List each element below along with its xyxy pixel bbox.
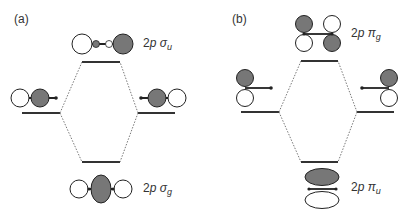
prefix: 2	[351, 26, 358, 40]
prefix: 2	[143, 181, 150, 195]
mo-diagram	[0, 0, 406, 220]
p: p	[150, 36, 157, 50]
pi-g-label: 2p πg	[351, 26, 381, 42]
right-p-orbital-b-icon	[360, 70, 397, 107]
sigma-u-orbital-icon	[72, 34, 133, 54]
symbol: π	[368, 180, 376, 194]
symbol: σ	[160, 181, 167, 195]
sigma-g-orbital-icon	[70, 175, 132, 203]
pi-u-label: 2p πu	[351, 180, 381, 196]
prefix: 2	[143, 36, 150, 50]
panel-b-label: (b)	[232, 12, 247, 26]
left-p-orbital-b-icon	[237, 70, 273, 107]
right-p-orbital-a-icon	[139, 89, 186, 107]
subscript: u	[167, 42, 172, 52]
p: p	[150, 181, 157, 195]
pi-g-orbital-icon	[296, 16, 341, 52]
sigma-u-label: 2p σu	[143, 36, 172, 52]
subscript: g	[376, 32, 381, 42]
left-p-orbital-a-icon	[11, 89, 58, 107]
symbol: σ	[160, 36, 167, 50]
subscript: u	[376, 186, 381, 196]
sigma-g-label: 2p σg	[143, 181, 172, 197]
p: p	[358, 26, 365, 40]
connectors-a	[60, 62, 138, 162]
panel-a-label: (a)	[14, 12, 29, 26]
connectors-b	[279, 61, 357, 162]
pi-u-orbital-icon	[305, 169, 339, 209]
prefix: 2	[351, 180, 358, 194]
symbol: π	[368, 26, 376, 40]
subscript: g	[167, 187, 172, 197]
p: p	[358, 180, 365, 194]
